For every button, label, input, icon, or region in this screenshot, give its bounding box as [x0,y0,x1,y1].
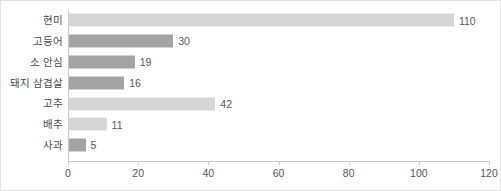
category-label: 고추 [1,98,63,109]
bar [68,55,135,68]
x-axis-tick-label: 40 [202,168,214,179]
x-axis-tick [349,161,350,165]
x-axis-tick [68,161,69,165]
bar-value-label: 42 [220,98,232,109]
bar [68,76,124,89]
bar-value-label: 5 [91,140,97,151]
x-axis-tick-label: 60 [273,168,285,179]
y-axis-line [68,10,69,161]
bar-value-label: 19 [140,57,152,68]
bar-container: 5 [68,139,96,152]
x-axis-tick-label: 0 [65,168,71,179]
category-label: 배추 [1,119,63,130]
bar-row: 배추11 [1,114,501,135]
category-label: 사과 [1,140,63,151]
bar-chart: 현미110고등어30소 안심19돼지 삼겹살16고추42배추11사과5 0204… [0,0,501,191]
bar-container: 16 [68,76,141,89]
bar-container: 11 [68,118,122,131]
bar-row: 고추42 [1,93,501,114]
bar [68,35,173,48]
x-axis-tick [279,161,280,165]
bar-row: 소 안심19 [1,52,501,73]
category-label: 돼지 삼겹살 [1,78,63,89]
category-label: 현미 [1,15,63,26]
x-axis-tick-label: 20 [132,168,144,179]
bar-value-label: 30 [178,36,190,47]
bar-row: 현미110 [1,10,501,31]
bar-row: 고등어30 [1,31,501,52]
x-axis-tick [489,161,490,165]
bar [68,118,107,131]
bar-value-label: 16 [129,78,141,89]
bar-value-label: 11 [112,119,123,130]
bar-row: 사과5 [1,135,501,156]
bar [68,139,86,152]
x-axis-tick-label: 120 [480,168,498,179]
x-axis-tick-label: 80 [343,168,355,179]
bar-rows: 현미110고등어30소 안심19돼지 삼겹살16고추42배추11사과5 [1,10,501,156]
bar-container: 19 [68,55,151,68]
bar-row: 돼지 삼겹살16 [1,72,501,93]
bar [68,97,215,110]
plot-area: 현미110고등어30소 안심19돼지 삼겹살16고추42배추11사과5 0204… [1,1,501,191]
bar-container: 42 [68,97,232,110]
category-label: 소 안심 [1,57,63,68]
bar-value-label: 110 [459,15,476,26]
x-axis-tick-label: 100 [410,168,428,179]
category-label: 고등어 [1,36,63,47]
x-axis-tick [208,161,209,165]
bar-container: 110 [68,14,476,27]
x-axis-tick [419,161,420,165]
x-axis-tick [138,161,139,165]
bar-container: 30 [68,35,190,48]
bar [68,14,454,27]
